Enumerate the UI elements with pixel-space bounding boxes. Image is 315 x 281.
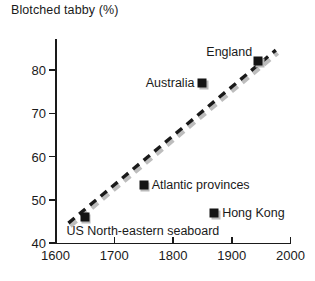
data-point-marker[interactable] [80, 213, 89, 222]
x-tick-label-1600: 1600 [26, 248, 86, 263]
y-tick-50 [49, 199, 56, 201]
data-point-marker[interactable] [139, 180, 148, 189]
y-tick-80 [49, 69, 56, 71]
x-tick-label-2000: 2000 [261, 248, 315, 263]
y-axis-title-text: Blotched tabby (%) [11, 3, 118, 17]
x-tick-label-1800: 1800 [143, 248, 203, 263]
x-tick-2000 [290, 237, 292, 244]
y-tick-label-80: 80 [2, 63, 46, 78]
data-point-label: England [206, 45, 252, 59]
y-tick-label-60: 60 [2, 149, 46, 164]
data-point-marker[interactable] [210, 208, 219, 217]
data-point-label: Hong Kong [222, 206, 285, 220]
data-point-marker[interactable] [254, 57, 263, 66]
x-tick-1600 [55, 237, 57, 244]
x-tick-label-1900: 1900 [202, 248, 262, 263]
data-point-label: US North-eastern seaboard [66, 224, 219, 238]
x-tick-label-1700: 1700 [84, 248, 144, 263]
y-tick-label-50: 50 [2, 192, 46, 207]
x-tick-1900 [231, 237, 233, 244]
y-tick-70 [49, 113, 56, 115]
data-point-label: Australia [146, 76, 195, 90]
trend-line [0, 0, 314, 281]
scatter-chart: Blotched tabby (%) 4050607080 1600170018… [0, 0, 314, 281]
y-tick-60 [49, 156, 56, 158]
y-axis-title: Blotched tabby (%) [11, 3, 118, 18]
y-tick-label-70: 70 [2, 106, 46, 121]
data-point-label: Atlantic provinces [152, 178, 250, 192]
data-point-marker[interactable] [198, 78, 207, 87]
